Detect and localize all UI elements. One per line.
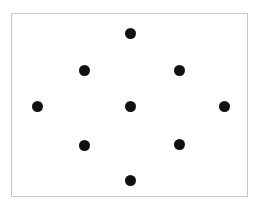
dot-right (219, 101, 230, 112)
dot-pattern-canvas (0, 0, 257, 210)
dot-top (125, 28, 136, 39)
dot-bottom (125, 175, 136, 186)
dot-upper-right (174, 65, 185, 76)
dot-center (125, 101, 136, 112)
dot-upper-left (79, 65, 90, 76)
dot-lower-left (79, 140, 90, 151)
dot-left (32, 101, 43, 112)
dot-lower-right (174, 139, 185, 150)
